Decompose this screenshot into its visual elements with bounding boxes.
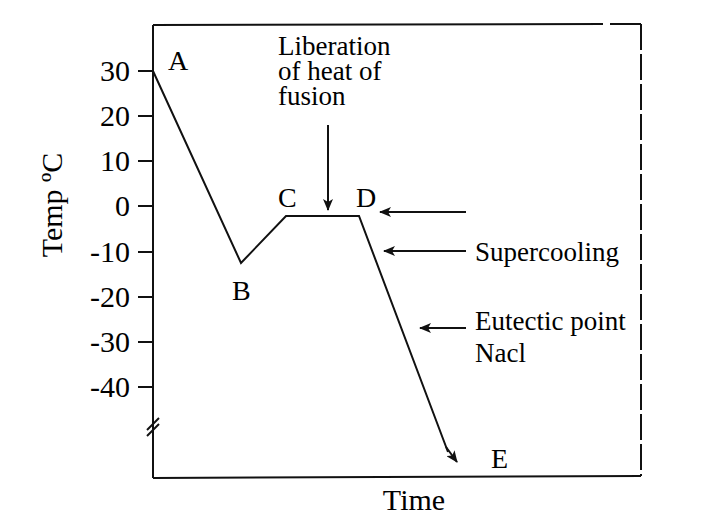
y-tick-label: 10 [100, 144, 130, 177]
y-axis-ticks [138, 71, 153, 387]
curve-end-arrow [446, 447, 457, 462]
y-tick-label: -20 [90, 280, 130, 313]
annotation-eutectic-line2: Nacl [475, 338, 526, 368]
x-axis-title: Time [383, 483, 445, 516]
y-axis-title: Temp ºC [35, 153, 68, 258]
annotation-eutectic-line1: Eutectic point [475, 306, 626, 336]
y-tick-label: -30 [90, 325, 130, 358]
y-tick-label: 20 [100, 99, 130, 132]
y-tick-label: 30 [100, 54, 130, 87]
annotation-fusion-line3: fusion [278, 81, 346, 111]
point-label-c: C [278, 182, 297, 213]
cooling-curve-line [153, 71, 448, 452]
point-label-b: B [232, 275, 251, 306]
point-label-a: A [168, 45, 189, 76]
y-tick-label: -10 [90, 235, 130, 268]
y-tick-label: -40 [90, 370, 130, 403]
point-label-d: D [356, 182, 376, 213]
y-axis-tick-labels: 30 20 10 0 -10 -20 -30 -40 [90, 54, 130, 403]
cooling-curve-chart: 30 20 10 0 -10 -20 -30 -40 Temp ºC Time … [0, 0, 705, 532]
point-label-e: E [491, 443, 508, 474]
annotation-supercooling: Supercooling [475, 237, 619, 267]
y-tick-label: 0 [115, 189, 130, 222]
